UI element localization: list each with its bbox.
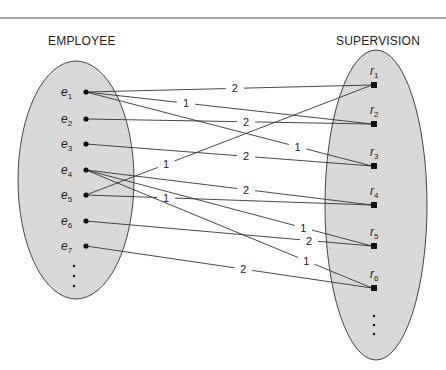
right-ellipsis-dot: [373, 333, 375, 335]
relationship-square-icon: [371, 202, 377, 208]
role-label: 1: [295, 141, 301, 153]
relationship-square-icon: [371, 285, 377, 291]
relationship-square-icon: [371, 121, 377, 127]
entity-dot-icon: [83, 167, 88, 172]
right-ellipsis-dot: [373, 315, 375, 317]
entity-dot-icon: [83, 192, 88, 197]
role-label: 1: [163, 158, 169, 170]
left-ellipsis-dot: [73, 285, 75, 287]
entity-dot-icon: [83, 218, 88, 223]
right-ellipsis-dot: [373, 324, 375, 326]
role-label: 2: [306, 235, 312, 247]
left-ellipsis-dot: [73, 275, 75, 277]
entity-dot-icon: [83, 141, 88, 146]
role-label: 1: [183, 97, 189, 109]
entity-dot-icon: [83, 243, 88, 248]
role-label: 2: [243, 116, 249, 128]
role-label: 2: [243, 150, 249, 162]
relationship-square-icon: [371, 243, 377, 249]
edge-e1-r2: 1: [86, 92, 372, 124]
employee-set-oval: [18, 61, 134, 299]
role-label: 2: [240, 263, 246, 275]
relationship-square-icon: [371, 163, 377, 169]
role-label: 2: [232, 82, 238, 94]
edge-e2-r2: 2: [86, 116, 372, 128]
entity-dot-icon: [83, 89, 88, 94]
entity-dot-icon: [83, 116, 88, 121]
edge-e1-r1: 2: [86, 82, 372, 94]
role-label: 1: [303, 255, 309, 267]
role-label: 1: [163, 192, 169, 204]
left-ellipsis-dot: [73, 265, 75, 267]
role-label: 1: [300, 222, 306, 234]
role-label: 2: [243, 184, 249, 196]
er-diagram-canvas: 211222111122 e1e2e3e4e5e6e7r1r2r3r4r5r6: [0, 0, 446, 370]
relationship-square-icon: [371, 82, 377, 88]
